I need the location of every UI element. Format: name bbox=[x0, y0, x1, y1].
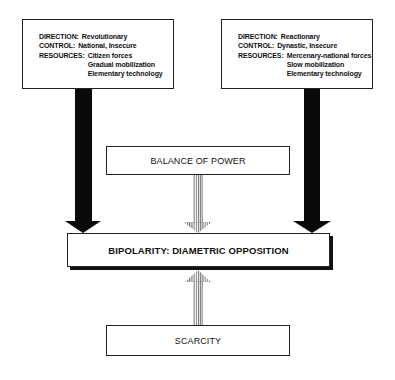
balance-of-power-label: BALANCE OF POWER bbox=[150, 156, 245, 166]
direction-value: Revolutionary bbox=[79, 32, 127, 41]
left-direction-row: DIRECTION: Revolutionary bbox=[39, 32, 173, 41]
scarcity-hatched-arrow bbox=[185, 270, 211, 325]
scarcity-box: SCARCITY bbox=[106, 325, 290, 356]
bipolarity-label: BIPOLARITY: DIAMETRIC OPPOSITION bbox=[108, 245, 288, 256]
bipolarity-box: BIPOLARITY: DIAMETRIC OPPOSITION bbox=[67, 233, 330, 267]
left-control-row: CONTROL: National, Insecure bbox=[39, 41, 173, 50]
resources-label: RESOURCES: bbox=[39, 51, 85, 79]
right-direction-row: DIRECTION: Reactionary bbox=[238, 32, 372, 41]
control-label: CONTROL: bbox=[39, 41, 75, 50]
left-solid-arrow bbox=[65, 89, 101, 233]
resource-value: Elementary technology bbox=[287, 69, 372, 78]
direction-label: DIRECTION: bbox=[238, 32, 278, 41]
resource-value: Elementary technology bbox=[88, 69, 163, 78]
scarcity-label: SCARCITY bbox=[175, 336, 221, 346]
left-resources-row: RESOURCES: Citizen forces Gradual mobili… bbox=[39, 51, 173, 79]
left-attributes-box: DIRECTION: Revolutionary CONTROL: Nation… bbox=[22, 19, 174, 89]
right-resources-row: RESOURCES: Mercenary-national forces Slo… bbox=[238, 51, 372, 79]
right-solid-arrow bbox=[293, 89, 331, 233]
right-attributes-box: DIRECTION: Reactionary CONTROL: Dynastic… bbox=[221, 19, 373, 89]
resources-label: RESOURCES: bbox=[238, 51, 284, 79]
control-value: Dynastic, Insecure bbox=[274, 41, 337, 50]
direction-label: DIRECTION: bbox=[39, 32, 79, 41]
balance-hatched-arrow bbox=[183, 174, 212, 233]
resource-value: Gradual mobilization bbox=[88, 60, 163, 69]
right-control-row: CONTROL: Dynastic, Insecure bbox=[238, 41, 372, 50]
resource-value: Citizen forces bbox=[88, 51, 163, 60]
balance-of-power-box: BALANCE OF POWER bbox=[106, 146, 290, 175]
direction-value: Reactionary bbox=[278, 32, 320, 41]
control-value: National, Insecure bbox=[75, 41, 137, 50]
resource-value: Slow mobilization bbox=[287, 60, 372, 69]
control-label: CONTROL: bbox=[238, 41, 274, 50]
resource-value: Mercenary-national forces bbox=[287, 51, 372, 60]
